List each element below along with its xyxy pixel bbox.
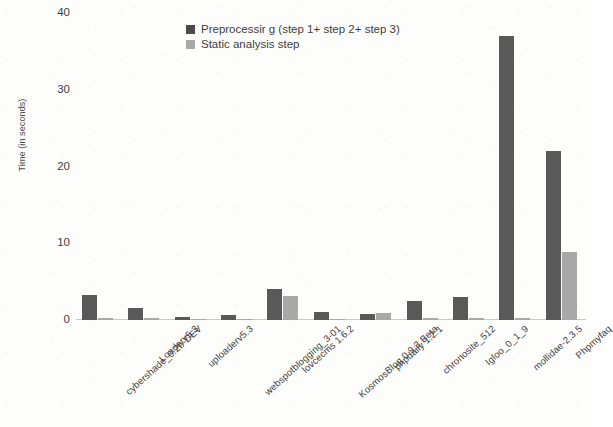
bar-group <box>82 13 113 320</box>
bar-preprocessing <box>360 314 375 320</box>
x-tick-label: phpdaily 1.2.1 <box>392 323 445 372</box>
bar-static-analysis <box>376 313 391 320</box>
y-tick-label: 10 <box>30 237 70 249</box>
x-axis-tick-labels: cybershade_0.2b-DEVLoaderv5.3uploaderv5.… <box>76 323 586 427</box>
bar-static-analysis <box>283 296 298 320</box>
bar-static-analysis <box>237 319 252 321</box>
x-tick-label: webspotblogging_3-01 <box>262 323 343 397</box>
bar-group <box>314 13 345 320</box>
x-tick-label: chronosite_512 <box>440 323 497 376</box>
bar-preprocessing <box>82 295 97 320</box>
y-tick-label: 40 <box>30 7 70 19</box>
bar-group <box>128 13 159 320</box>
bar-static-analysis <box>515 318 530 320</box>
plot-area <box>76 13 586 320</box>
bar-preprocessing <box>546 151 561 320</box>
bar-group <box>267 13 298 320</box>
y-tick-label: 30 <box>30 84 70 96</box>
bar-group <box>499 13 530 320</box>
bar-preprocessing <box>407 301 422 320</box>
x-tick-label: Loaderv5.3 <box>157 323 201 364</box>
bar-group <box>407 13 438 320</box>
bar-static-analysis <box>469 318 484 320</box>
y-tick-label: 0 <box>30 314 70 326</box>
y-axis-ticks: 010203040 <box>30 0 70 427</box>
y-tick-label: 20 <box>30 161 70 173</box>
bar-preprocessing <box>175 317 190 320</box>
x-tick-label: uploaderv5.3 <box>205 323 254 369</box>
bar-preprocessing <box>128 308 143 320</box>
bar-preprocessing <box>267 289 282 320</box>
bar-static-analysis <box>98 318 113 320</box>
x-tick-label: mollidae-2.3.5 <box>531 323 584 372</box>
bar-preprocessing <box>221 315 236 320</box>
bar-static-analysis <box>191 319 206 321</box>
y-axis-title: Time (in seconds) <box>17 75 27 195</box>
bar-static-analysis <box>330 319 345 321</box>
bar-static-analysis <box>562 252 577 320</box>
bar-preprocessing <box>499 36 514 320</box>
bar-group <box>221 13 252 320</box>
bar-group <box>453 13 484 320</box>
bar-group <box>175 13 206 320</box>
bar-static-analysis <box>423 318 438 320</box>
bar-group <box>360 13 391 320</box>
bar-preprocessing <box>453 297 468 320</box>
bar-preprocessing <box>314 312 329 320</box>
bar-group <box>546 13 577 320</box>
bar-static-analysis <box>144 318 159 320</box>
